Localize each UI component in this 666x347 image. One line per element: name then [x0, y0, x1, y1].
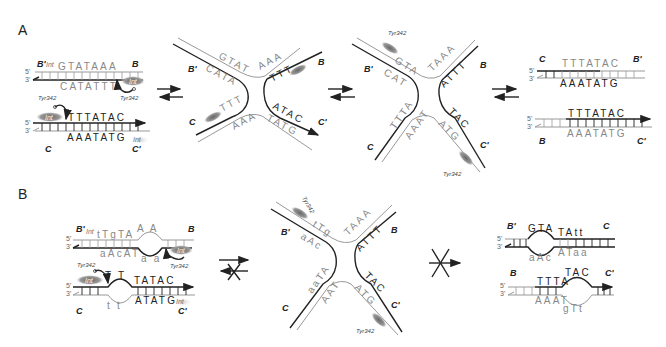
tyr342-label: Tyr342 — [120, 95, 139, 101]
panel-label-b: B — [18, 186, 27, 202]
end-label: 5' — [497, 235, 502, 242]
holliday-junction-b: B' B C C' tTg aAc TAAA ATTT aaTA AAT TAC… — [271, 196, 402, 336]
holliday-junction-a1: B' B C C' GTAT CATA AAA TTT TTT AAA ATAC… — [173, 38, 327, 150]
end-label: 3' — [66, 290, 71, 297]
int-label: Int — [129, 78, 138, 85]
site-label: B — [188, 224, 195, 234]
end-label: 3' — [25, 76, 30, 83]
duplex-a-right-top: C B' TTTATAC 5' 3' AAATATG — [529, 54, 645, 89]
site-label: B — [510, 268, 517, 278]
loop-sequence: TAC — [565, 267, 591, 278]
sequence-top: TTTATAC — [568, 108, 626, 119]
end-label: 5' — [66, 235, 71, 242]
end-label: 3' — [529, 75, 534, 82]
site-label: B — [391, 225, 398, 235]
loop-sequence: a a — [141, 253, 162, 264]
int-label: Int — [177, 247, 186, 254]
sequence-top: TATAC — [134, 275, 176, 286]
end-label: 5' — [500, 282, 505, 289]
site-label: B — [132, 59, 139, 69]
int-label: Int — [176, 298, 185, 305]
end-label: 3' — [500, 290, 505, 297]
site-label: C — [189, 117, 196, 127]
site-label: C — [367, 142, 374, 152]
sequence-top: TAtt — [558, 227, 584, 238]
sequence-bottom: AAATATG — [67, 132, 127, 143]
tyr342-label: Tyr342 — [388, 30, 407, 36]
end-label: 5' — [527, 115, 532, 122]
sequence-bottom: CATATTT — [60, 81, 118, 92]
site-label: C — [539, 54, 546, 64]
tyr342-label: Tyr342 — [170, 263, 189, 269]
site-label: C' — [605, 268, 614, 278]
int-label: Int — [133, 136, 142, 143]
site-label: C' — [318, 117, 327, 127]
tyr342-label: Tyr342 — [443, 171, 462, 177]
duplex-b-right-top: B' C GTA TAtt 5' 3' aAc ATaa — [497, 221, 615, 263]
recombination-diagram: A B' B Int GTATAAA 5' 3' CATATTT Int Tyr… — [0, 0, 666, 347]
end-label: 5' — [25, 119, 30, 126]
blocked-forward-arrow-icon — [429, 249, 460, 277]
site-label: C — [45, 144, 52, 154]
loop-sequence: aAc — [529, 252, 553, 263]
holliday-junction-a2: B' B C C' GTA CAT TAAA ATTT TTTA AAAT TA… — [352, 30, 489, 177]
blocked-equilibrium-arrow-icon — [219, 260, 248, 280]
end-label: 3' — [527, 123, 532, 130]
sequence-bottom: ATaa — [558, 247, 589, 258]
site-label: C' — [480, 140, 489, 150]
site-label: B — [539, 136, 546, 146]
tyr342-label: Tyr342 — [38, 95, 57, 101]
int-label: Int — [85, 277, 94, 284]
end-label: 3' — [25, 127, 30, 134]
site-label: C' — [178, 306, 187, 316]
sequence-label: TTT — [218, 92, 245, 113]
duplex-a-left-bottom: Tyr342 Int TTTATAC 5' 3' AAATATG Int C C… — [25, 95, 150, 154]
site-label: B' — [507, 221, 516, 231]
equilibrium-arrow-icon — [492, 89, 519, 97]
site-label: B' — [633, 54, 642, 64]
int-label: Int — [45, 114, 54, 121]
site-label: C — [282, 303, 289, 313]
sequence-label: AAA — [230, 110, 259, 132]
loop-sequence: t t — [107, 300, 122, 311]
sequence-top: TTTATAC — [68, 112, 126, 123]
site-label: C — [76, 306, 83, 316]
site-label: B — [318, 57, 325, 67]
site-label: C — [603, 221, 610, 231]
end-label: 3' — [497, 243, 502, 250]
sequence-top: TTTATAC — [562, 58, 620, 69]
site-label: C' — [637, 136, 646, 146]
site-label: B' — [188, 64, 197, 74]
duplex-a-right-bottom: TTTATAC 5' 3' AAATATG B C' — [527, 108, 652, 146]
site-label: B — [480, 60, 487, 70]
sequence-top: tTgTA — [97, 229, 134, 240]
equilibrium-arrow-icon — [157, 89, 183, 97]
sequence-bottom: aAcAT — [100, 248, 140, 259]
end-label: 5' — [529, 67, 534, 74]
site-label: C' — [132, 144, 141, 154]
loop-sequence: GTA — [528, 223, 554, 234]
sequence-bottom: AAATATG — [567, 128, 627, 139]
equilibrium-arrow-icon — [328, 89, 355, 97]
end-label: 5' — [25, 68, 30, 75]
duplex-b-left-bottom: Tyr342 Int T T TATAC 5' 3' t t ATATG Int… — [66, 262, 195, 316]
sequence-bottom: AAATATG — [560, 78, 620, 89]
end-label: 3' — [66, 243, 71, 250]
site-label: B' — [281, 227, 290, 237]
site-label: C' — [391, 300, 400, 310]
sequence-bottom: ATATG — [135, 295, 177, 306]
tyr342-label: Tyr342 — [77, 262, 96, 268]
end-label: 5' — [66, 282, 71, 289]
sequence-top: GTATAAA — [58, 61, 118, 72]
site-label: B' — [76, 224, 85, 234]
site-label: B' — [364, 64, 373, 74]
duplex-b-right-bottom: B C' TTTA TAC 5' 3' AAAT gTt — [500, 267, 614, 314]
tyr342-label: Tyr342 — [356, 328, 375, 334]
panel-label-a: A — [18, 22, 28, 38]
int-label: Int — [86, 228, 95, 235]
int-label: Int — [46, 61, 55, 68]
loop-sequence: gTt — [563, 303, 584, 314]
